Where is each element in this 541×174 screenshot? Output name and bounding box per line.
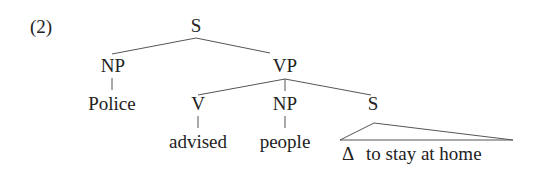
node-np-object: NP <box>273 93 297 114</box>
empty-subject-delta: Δ <box>342 143 354 164</box>
word-to-stay-at-home: to stay at home <box>366 143 482 164</box>
node-s-complement: S <box>368 93 379 114</box>
example-number: (2) <box>30 16 52 38</box>
node-vp: VP <box>273 55 297 76</box>
triangle-s-complement <box>340 123 513 140</box>
edge-vp-s <box>285 79 371 95</box>
node-s-root: S <box>191 15 202 36</box>
word-people: people <box>260 131 311 152</box>
syntax-tree: (2) S NP Police VP V advised NP people S… <box>0 0 541 174</box>
edge-s-vp <box>196 38 270 53</box>
word-advised: advised <box>169 131 228 152</box>
node-np-subject: NP <box>101 55 125 76</box>
edge-s-np <box>112 38 196 54</box>
node-v: V <box>191 93 205 114</box>
word-police: Police <box>88 93 136 114</box>
